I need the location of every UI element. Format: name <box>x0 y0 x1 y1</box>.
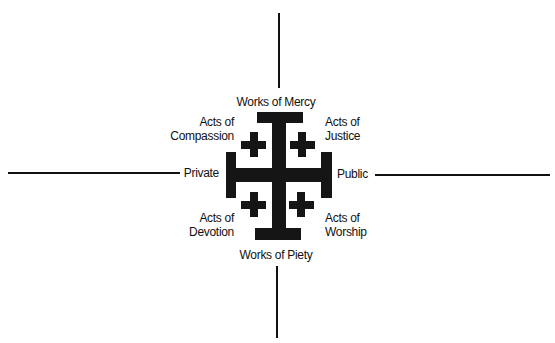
label-line-2: Compassion <box>163 129 234 143</box>
label-line-2: Devotion <box>163 225 234 239</box>
axis-line-right <box>375 174 550 176</box>
label-line-1: Acts of <box>325 115 395 129</box>
label-private: Private <box>170 166 219 180</box>
label-works-of-piety: Works of Piety <box>226 248 326 262</box>
cross-bar-bottom <box>255 228 301 240</box>
label-works-of-mercy: Works of Mercy <box>226 95 326 109</box>
label-acts-of-devotion: Acts of Devotion <box>163 211 234 239</box>
label-line-1: Acts of <box>163 115 234 129</box>
label-line-2: Justice <box>325 129 395 143</box>
cross-bar-left <box>226 152 236 198</box>
cross-bar-top <box>257 112 303 123</box>
quadrant-diagram: Works of Mercy Works of Piety Private Pu… <box>0 0 555 343</box>
label-line-1: Acts of <box>163 211 234 225</box>
axis-line-top <box>278 13 280 88</box>
label-acts-of-justice: Acts of Justice <box>325 115 395 143</box>
label-line-2: Worship <box>325 225 395 239</box>
cross-bar-right <box>321 152 332 198</box>
axis-line-left <box>8 172 180 174</box>
label-acts-of-compassion: Acts of Compassion <box>163 115 234 143</box>
axis-line-bottom <box>276 266 278 338</box>
label-acts-of-worship: Acts of Worship <box>325 211 395 239</box>
cross-arm-horizontal <box>226 168 331 182</box>
label-line-1: Acts of <box>325 211 395 225</box>
label-public: Public <box>337 167 377 181</box>
